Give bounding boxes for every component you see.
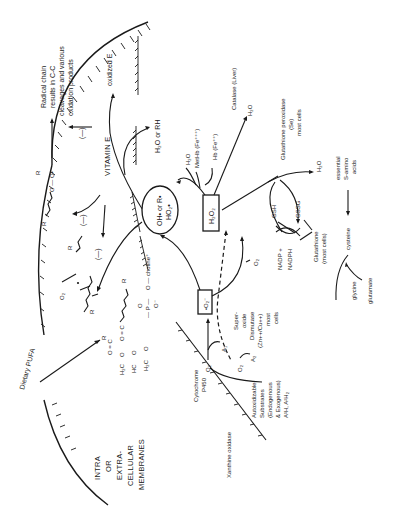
svg-text:R: R — [89, 309, 95, 314]
svg-text:H₂O: H₂O — [185, 153, 191, 165]
svg-text:most cells: most cells — [296, 109, 302, 136]
svg-text:glutamate: glutamate — [367, 277, 373, 304]
svg-text:(Se): (Se) — [288, 119, 294, 130]
svg-text:H₂O: H₂O — [316, 160, 322, 172]
svg-text:acids: acids — [351, 160, 357, 174]
svg-text:HO₂•: HO₂• — [165, 204, 172, 220]
peroxyl-radical: R O — O• R — [35, 118, 55, 226]
dietary-pufa-group: Dietary PUFA — [18, 340, 100, 391]
svg-text:H₂O: H₂O — [247, 104, 253, 116]
svg-text:(Endogenous: (Endogenous — [267, 382, 273, 418]
svg-text:Dismutase: Dismutase — [249, 311, 255, 340]
svg-text:HC: HC — [131, 364, 137, 373]
svg-text:R: R — [35, 170, 41, 175]
svg-text:H₂C: H₂C — [143, 359, 149, 371]
svg-text:Radical chain: Radical chain — [40, 66, 47, 108]
svg-text:OR: OR — [104, 460, 113, 472]
svg-text:MetHb (Fe⁺⁺⁺): MetHb (Fe⁺⁺⁺) — [194, 129, 200, 168]
svg-text:glycine: glycine — [351, 281, 357, 300]
svg-text:H₂O or RH: H₂O or RH — [154, 120, 161, 153]
svg-text:•O₂⁻: •O₂⁻ — [203, 298, 209, 310]
svg-text:Autoxidizable: Autoxidizable — [251, 382, 257, 418]
phospholipid-structure: O = C H₂C O O = C HC O H₂C O R — P — O —… — [101, 254, 159, 375]
amino-acids: essential S-amino acids cysteine glycine… — [335, 156, 373, 304]
glutathione-cycle: GSH GSSG NADP + NADPH Glutathione (most … — [270, 180, 327, 270]
svg-text:(—): (—) — [79, 214, 87, 226]
svg-text:O: O — [119, 352, 125, 357]
svg-text:O₂: O₂ — [59, 292, 65, 300]
svg-text:EXTRA-: EXTRA- — [115, 450, 124, 480]
svg-text:H₂O₂: H₂O₂ — [208, 208, 215, 224]
dietary-pufa-label: Dietary PUFA — [18, 347, 37, 390]
svg-text:cells: cells — [273, 312, 279, 324]
svg-text:Glutathione peroxidase: Glutathione peroxidase — [280, 98, 286, 160]
svg-text:A¹H, A²H₂: A¹H, A²H₂ — [283, 391, 289, 418]
vitamin-e-label: VITAMIN E — [103, 136, 112, 176]
svg-text:Catalase (Liver): Catalase (Liver) — [231, 68, 237, 110]
svg-text:O = C: O = C — [119, 324, 125, 341]
svg-text:(—): (—) — [94, 248, 102, 260]
svg-text:O: O — [143, 346, 149, 351]
svg-text:MEMBRANES: MEMBRANES — [137, 439, 146, 490]
svg-text:oxide: oxide — [241, 313, 247, 328]
svg-text:most: most — [265, 313, 271, 326]
svg-text:GSSG: GSSG — [295, 200, 301, 218]
svg-text:& Exogenous): & Exogenous) — [275, 380, 281, 418]
svg-text:R: R — [41, 221, 47, 226]
svg-text:Glutathione: Glutathione — [313, 231, 319, 262]
svg-text:NADPH: NADPH — [287, 249, 293, 270]
svg-text:GSH: GSH — [271, 205, 277, 218]
svg-text:Xanthine oxidase: Xanthine oxidase — [226, 431, 232, 478]
svg-text:O: O — [137, 303, 143, 308]
inhibit-label: (—) — [78, 127, 86, 139]
glutathione-peroxidase-label: Glutathione peroxidase (Se) most cells — [280, 98, 302, 160]
svg-text:O — O•: O — O• — [49, 171, 55, 192]
svg-text:O₂: O₂ — [253, 258, 259, 266]
pathway-diagram: Dietary PUFA INTRA OR EXTRA- CELLULAR ME… — [0, 0, 395, 510]
svg-text:A₂: A₂ — [250, 355, 256, 362]
superoxide-sources: A₁ O₂ A₂ O₂ Autoxidizable Substrates (En… — [176, 318, 289, 478]
svg-text:P450: P450 — [201, 377, 207, 392]
svg-text:R: R — [101, 335, 107, 340]
svg-text:oxidized E: oxidized E — [106, 53, 113, 86]
svg-text:H₂C: H₂C — [119, 363, 125, 375]
svg-text:O: O — [131, 350, 137, 355]
svg-text:(Zn++/Cu++): (Zn++/Cu++) — [257, 314, 263, 348]
svg-text:Hb (Fe⁺⁺): Hb (Fe⁺⁺) — [212, 134, 218, 160]
svg-text:O = C: O = C — [107, 338, 113, 355]
svg-text:essential: essential — [335, 156, 341, 180]
svg-text:cleavages and various: cleavages and various — [58, 46, 66, 116]
svg-text:OH• or R•: OH• or R• — [156, 195, 163, 226]
svg-text:INTRA: INTRA — [93, 456, 102, 480]
svg-text:S-amino: S-amino — [343, 157, 349, 180]
svg-text:Super-: Super- — [233, 312, 239, 330]
svg-text:(most cells): (most cells) — [321, 233, 327, 264]
radical-chain-note: Radical chain results in C-C cleavages a… — [40, 46, 75, 116]
svg-text:A₁: A₁ — [221, 346, 227, 352]
svg-text:O⁻: O⁻ — [153, 300, 159, 308]
membrane-label: INTRA OR EXTRA- CELLULAR MEMBRANES — [93, 439, 146, 490]
svg-text:— P —: — P — — [145, 299, 151, 318]
svg-text:CELLULAR: CELLULAR — [126, 445, 135, 486]
svg-text:NADP +: NADP + — [277, 248, 283, 270]
svg-text:Substrates: Substrates — [259, 389, 265, 418]
svg-text:oxidation products: oxidation products — [67, 59, 75, 116]
svg-text:cysteine: cysteine — [345, 227, 351, 250]
vitamin-e-group: VITAMIN E (—) (—) (—) — [68, 125, 112, 260]
svg-text:results in C-C: results in C-C — [49, 66, 56, 108]
svg-text:R: R — [121, 278, 127, 283]
vitamin-e-cycle: oxidized E H₂O or RH — [106, 36, 161, 270]
lipid-radical: O₂ R R — [59, 236, 98, 314]
svg-text:R: R — [67, 245, 73, 250]
svg-text:O₂: O₂ — [237, 364, 243, 372]
svg-text:Cytochrome: Cytochrome — [193, 369, 199, 402]
